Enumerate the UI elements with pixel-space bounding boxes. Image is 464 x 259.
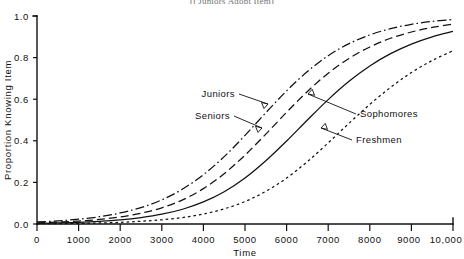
x-axis-ticks bbox=[37, 224, 453, 231]
xtick-label: 1000 bbox=[67, 234, 91, 245]
annotation-sophomores: Sophomores bbox=[360, 108, 418, 119]
xtick-label: 2000 bbox=[108, 234, 132, 245]
x-axis-title: Time bbox=[233, 247, 257, 258]
ytick-label: 0.8 bbox=[14, 52, 29, 63]
annotation-seniors: Seniors bbox=[195, 110, 230, 121]
chart-svg: 1.0 0.8 0.6 0.4 0.2 0.0 Proportion Knowi… bbox=[0, 0, 464, 259]
xtick-label: 7000 bbox=[316, 234, 340, 245]
data-curves-group bbox=[37, 20, 453, 224]
curve-sophomores bbox=[37, 31, 453, 223]
ytick-label: 0.4 bbox=[14, 135, 29, 146]
figure-container: (j Juniors Adopt Item) 1.0 0.8 0.6 0.4 0… bbox=[0, 0, 464, 259]
y-axis-title: Proportion Knowing Item bbox=[2, 60, 13, 180]
xtick-label: 6000 bbox=[275, 234, 299, 245]
ytick-label: 1.0 bbox=[14, 11, 29, 22]
annotation-freshmen: Freshmen bbox=[356, 134, 402, 145]
xtick-label: 5000 bbox=[233, 234, 257, 245]
annotation-juniors: Juniors bbox=[202, 88, 235, 99]
series-annotations: Juniors Seniors Sophomores Freshmen bbox=[195, 88, 418, 145]
xtick-label: 9000 bbox=[397, 234, 421, 245]
ytick-label: 0.0 bbox=[14, 219, 29, 230]
x-axis-tick-labels: 0 1000 2000 3000 4000 5000 6000 7000 800… bbox=[34, 234, 462, 245]
xtick-label: 0 bbox=[34, 234, 40, 245]
y-axis-tick-labels: 1.0 0.8 0.6 0.4 0.2 0.0 bbox=[14, 11, 29, 230]
ytick-label: 0.6 bbox=[14, 94, 29, 105]
xtick-label: 3000 bbox=[150, 234, 174, 245]
xtick-label: 4000 bbox=[192, 234, 216, 245]
xtick-label: 8000 bbox=[358, 234, 382, 245]
xtick-label: 10,000 bbox=[430, 234, 463, 245]
ytick-label: 0.2 bbox=[14, 177, 29, 188]
